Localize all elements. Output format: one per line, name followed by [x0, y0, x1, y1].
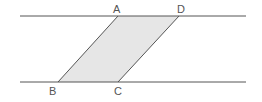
label-d: D	[177, 3, 185, 15]
label-a: A	[113, 3, 121, 15]
label-b: B	[49, 85, 56, 97]
parallelogram-diagram: A D B C	[0, 0, 262, 102]
parallelogram-abcd	[58, 16, 179, 82]
label-c: C	[114, 85, 122, 97]
